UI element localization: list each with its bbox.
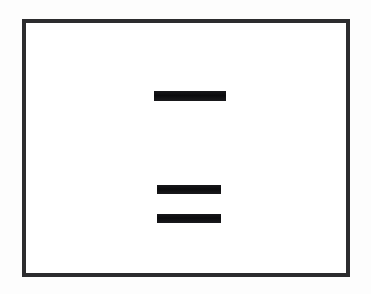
page-canvas — [0, 0, 371, 294]
redaction-bar-top — [154, 91, 226, 101]
redaction-bar-middle — [157, 185, 221, 194]
document-frame — [22, 19, 350, 277]
document-page-interior — [26, 23, 346, 273]
redaction-bar-bottom — [157, 214, 221, 223]
